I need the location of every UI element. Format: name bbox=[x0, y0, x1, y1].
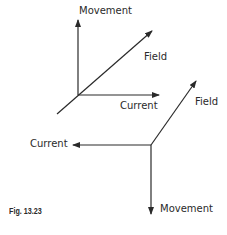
vector-diagram bbox=[0, 0, 227, 235]
label-current-top: Current bbox=[120, 101, 158, 111]
figure-caption: Fig. 13.23 bbox=[9, 206, 42, 216]
label-movement-bottom: Movement bbox=[160, 204, 213, 214]
label-movement-top: Movement bbox=[79, 6, 132, 16]
label-field-bottom: Field bbox=[195, 97, 218, 107]
label-field-top: Field bbox=[144, 52, 167, 62]
label-current-bottom: Current bbox=[30, 139, 68, 149]
figure-canvas: Movement Field Current Current Field Mov… bbox=[0, 0, 227, 235]
field-arrow-bottom bbox=[151, 81, 196, 145]
